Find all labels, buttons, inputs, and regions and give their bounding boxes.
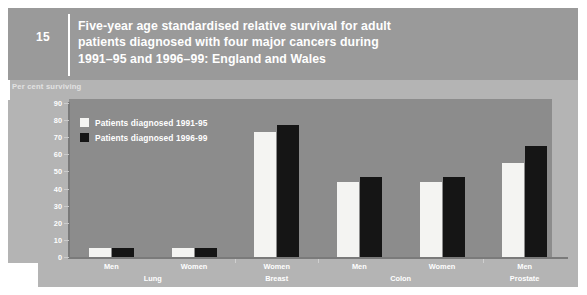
x-group-separator xyxy=(235,259,236,263)
x-category-label: Men xyxy=(319,262,399,271)
chart-figure: 15 Five-year age standardised relative s… xyxy=(0,0,587,295)
x-category-label: Men xyxy=(71,262,151,271)
x-group-label: Lung xyxy=(113,274,193,283)
x-category-label: Men xyxy=(485,262,565,271)
x-group-separator xyxy=(318,259,319,263)
x-axis-labels: MenWomenWomenMenWomenMenLungBreastColonP… xyxy=(0,0,587,295)
x-category-label: Women xyxy=(402,262,482,271)
x-group-label: Prostate xyxy=(485,274,565,283)
x-category-label: Women xyxy=(154,262,234,271)
x-group-label: Colon xyxy=(361,274,441,283)
x-group-label: Breast xyxy=(237,274,317,283)
x-group-separator xyxy=(483,259,484,263)
x-category-label: Women xyxy=(237,262,317,271)
